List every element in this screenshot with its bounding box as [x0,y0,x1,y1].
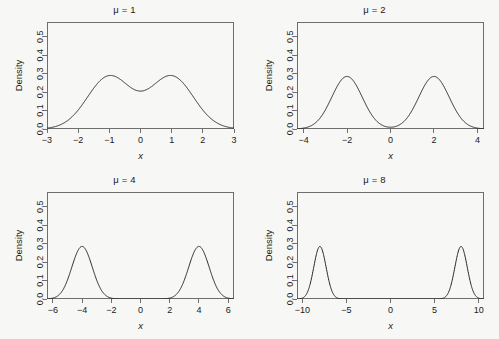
svg-text:−1: −1 [104,135,114,145]
plot-panel-mu-1: μ = 1 −3−2−101230.00.10.20.30.40.5xDensi… [0,0,249,169]
svg-text:x: x [387,320,394,331]
density-plot-figure: μ = 1 −3−2−101230.00.10.20.30.40.5xDensi… [0,0,499,339]
svg-text:0.2: 0.2 [285,86,295,99]
svg-text:2: 2 [431,135,436,145]
svg-text:x: x [137,320,144,331]
svg-text:0.5: 0.5 [35,31,45,44]
density-curve [297,22,484,129]
svg-text:0.5: 0.5 [285,201,295,214]
svg-text:0.1: 0.1 [285,274,295,287]
svg-text:0.3: 0.3 [35,237,45,250]
svg-text:−2: −2 [342,135,352,145]
svg-text:−3: −3 [42,135,52,145]
svg-text:0.4: 0.4 [35,219,45,232]
svg-text:0.5: 0.5 [285,31,295,44]
plot-area [297,192,484,299]
svg-text:2: 2 [200,135,205,145]
svg-text:2: 2 [167,305,172,315]
panel-title: μ = 4 [0,174,249,185]
svg-text:6: 6 [226,305,231,315]
plot-panel-mu-8: μ = 8 −10−505100.00.10.20.30.40.5xDensit… [250,170,499,339]
svg-text:0: 0 [138,135,143,145]
svg-text:0.3: 0.3 [285,237,295,250]
density-curve [297,192,484,299]
svg-text:0.3: 0.3 [285,67,295,80]
svg-text:−10: −10 [295,305,310,315]
svg-text:Density: Density [263,59,274,91]
density-curve [47,192,234,299]
svg-text:−5: −5 [341,305,351,315]
svg-text:0.4: 0.4 [285,219,295,232]
svg-text:0.3: 0.3 [35,67,45,80]
plot-panel-mu-4: μ = 4 −6−4−202460.00.10.20.30.40.5xDensi… [0,170,249,339]
svg-text:−4: −4 [77,305,87,315]
plot-area [47,22,234,129]
panel-title: μ = 1 [0,4,249,15]
svg-text:0.1: 0.1 [35,274,45,287]
svg-text:4: 4 [475,135,480,145]
svg-text:−2: −2 [106,305,116,315]
svg-text:3: 3 [231,135,236,145]
svg-text:0.4: 0.4 [285,49,295,62]
svg-text:4: 4 [196,305,201,315]
svg-text:0.0: 0.0 [35,293,45,306]
svg-text:x: x [387,150,394,161]
svg-text:Density: Density [263,229,274,261]
svg-text:0.4: 0.4 [35,49,45,62]
svg-text:0.5: 0.5 [35,201,45,214]
svg-text:0.0: 0.0 [285,293,295,306]
svg-text:0.2: 0.2 [35,256,45,269]
plot-area [47,192,234,299]
svg-text:0.1: 0.1 [285,104,295,117]
svg-text:−6: −6 [48,305,58,315]
density-curve [47,22,234,129]
svg-text:Density: Density [13,59,24,91]
svg-text:0.0: 0.0 [285,123,295,136]
svg-text:Density: Density [13,229,24,261]
svg-text:x: x [137,150,144,161]
svg-text:0: 0 [388,305,393,315]
svg-text:1: 1 [169,135,174,145]
plot-panel-mu-2: μ = 2 −4−20240.00.10.20.30.40.5xDensity [250,0,499,169]
svg-text:0.2: 0.2 [285,256,295,269]
svg-text:−2: −2 [73,135,83,145]
plot-area [297,22,484,129]
panel-title: μ = 2 [250,4,499,15]
svg-text:0: 0 [138,305,143,315]
svg-text:0: 0 [388,135,393,145]
svg-text:0.1: 0.1 [35,104,45,117]
svg-text:0.0: 0.0 [35,123,45,136]
panel-title: μ = 8 [250,174,499,185]
svg-text:0.2: 0.2 [35,86,45,99]
svg-text:5: 5 [432,305,437,315]
svg-text:−4: −4 [298,135,308,145]
svg-text:10: 10 [474,305,484,315]
